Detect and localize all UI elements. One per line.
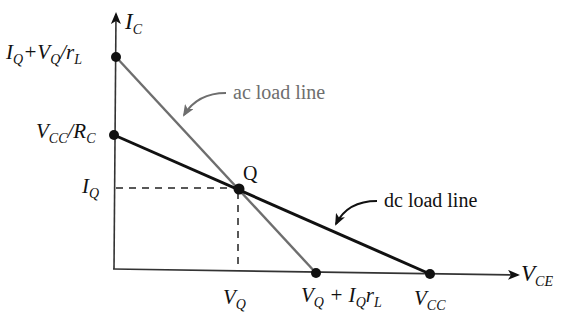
ac-y-intercept-point (111, 52, 121, 62)
dc-y-intercept-point (109, 130, 119, 140)
dc-load-line-label: dc load line (384, 190, 477, 210)
y-tick-ac-intercept: IQ+VQ/rL (6, 42, 82, 67)
dc-x-intercept-point (425, 269, 435, 279)
dc-annotation-arrow (336, 201, 377, 224)
x-tick-vcc: VCC (414, 288, 446, 313)
ac-annotation-arrow (184, 93, 226, 115)
x-tick-ac-intercept: VQ + IQrL (301, 285, 382, 310)
y-tick-dc-intercept: VCC/RC (36, 121, 96, 146)
load-line-diagram: IC VCE IQ+VQ/rL VCC/RC IQ VQ VQ + IQrL V… (0, 0, 575, 324)
y-tick-iq: IQ (82, 176, 99, 201)
plot-canvas (0, 0, 575, 324)
y-axis-label: IC (125, 10, 142, 37)
ac-load-line-label: ac load line (233, 82, 325, 102)
q-point (234, 184, 245, 195)
dc-load-line (114, 135, 430, 274)
x-tick-vq: VQ (223, 287, 246, 312)
x-axis-label: VCE (521, 262, 553, 289)
q-point-label: Q (243, 163, 257, 183)
ac-x-intercept-point (311, 268, 321, 278)
